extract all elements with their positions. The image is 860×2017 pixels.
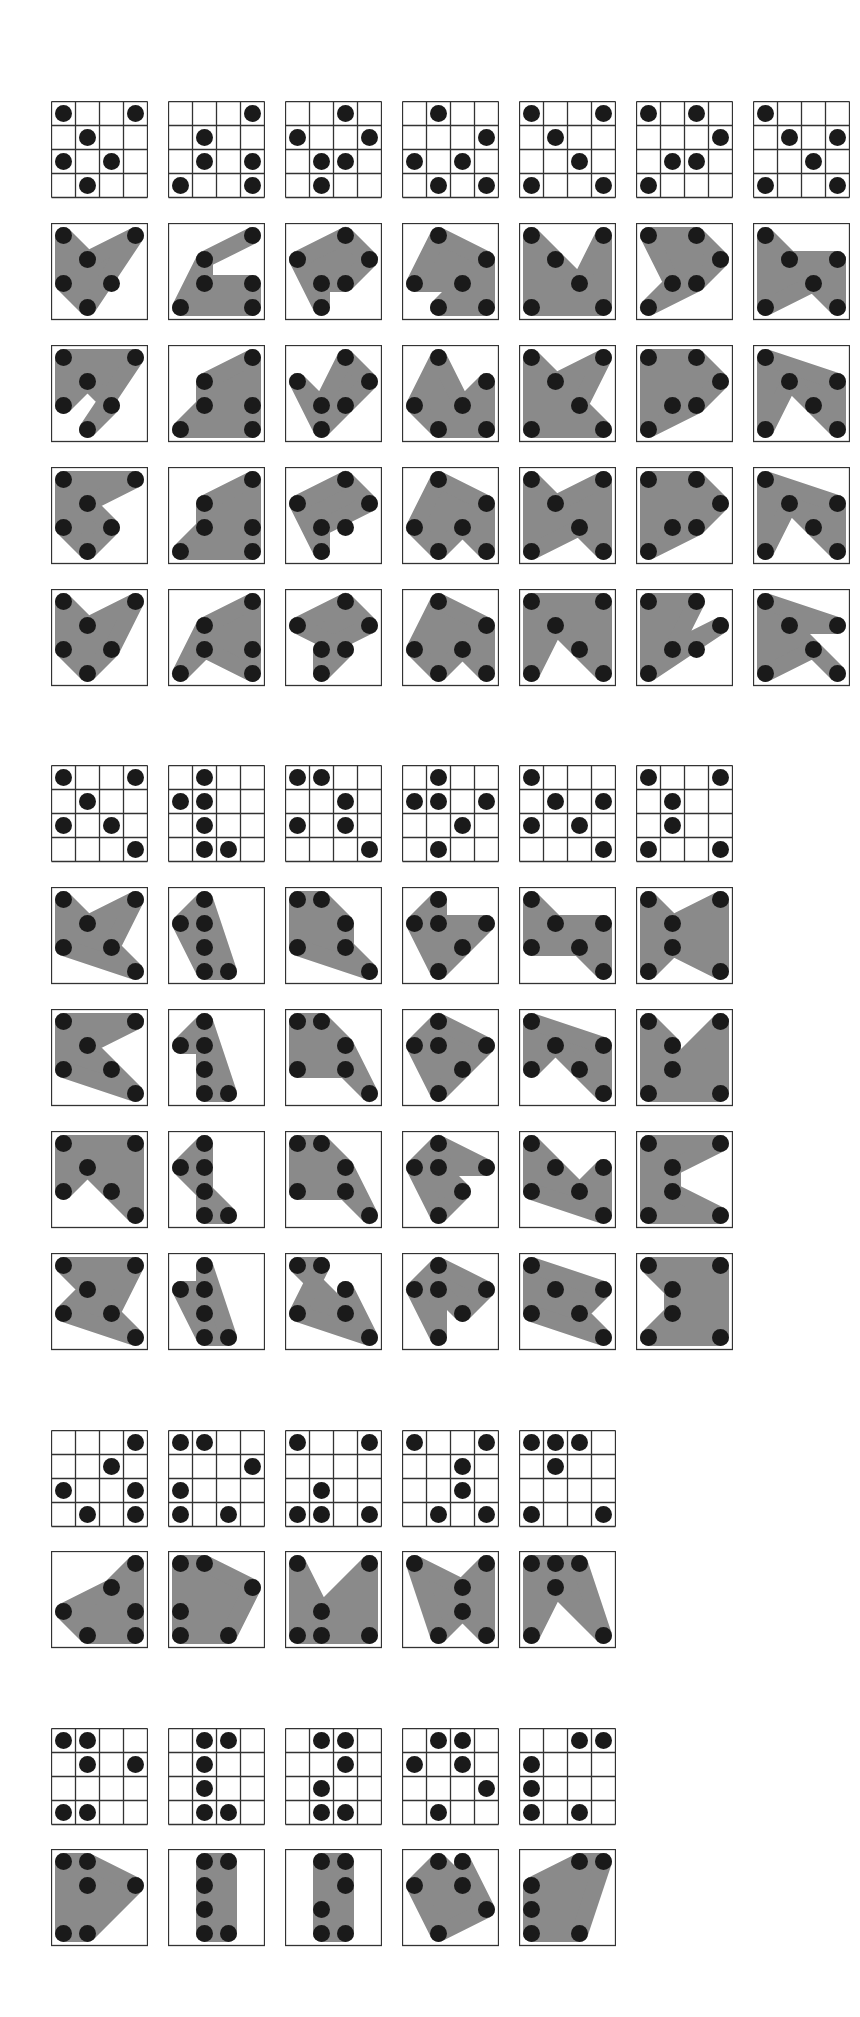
polygon-figure — [51, 1009, 147, 1106]
polygon-figure — [402, 887, 498, 984]
dot-grid — [285, 1728, 381, 1825]
dot-grid — [51, 101, 147, 198]
polygon-figure — [519, 223, 615, 320]
polygon-figure — [285, 1009, 381, 1106]
polygon-figure — [285, 223, 381, 320]
dot-grid — [519, 765, 615, 862]
dot-grid — [168, 1728, 264, 1825]
polygon-figure — [168, 887, 264, 984]
polygon-figure — [402, 1253, 498, 1350]
polygon-figure — [519, 1551, 615, 1648]
polygon-figure — [402, 1551, 498, 1648]
polygon-figure — [519, 1253, 615, 1350]
dot-grid — [168, 101, 264, 198]
polygon-figure — [636, 589, 732, 686]
polygon-figure — [285, 1551, 381, 1648]
polygon-figure — [402, 223, 498, 320]
polygon-figure — [519, 589, 615, 686]
polygon-figure — [519, 1131, 615, 1228]
polygon-figure — [168, 467, 264, 564]
polygon-figure — [636, 467, 732, 564]
polygon-figure — [51, 589, 147, 686]
dot-grid — [519, 1430, 615, 1527]
polygon-figure — [168, 1253, 264, 1350]
polygon-figure — [168, 223, 264, 320]
polygon-figure — [753, 223, 849, 320]
polygon-figure — [51, 1253, 147, 1350]
polygon-figure — [753, 345, 849, 442]
dot-grid — [51, 765, 147, 862]
dot-grid — [51, 1728, 147, 1825]
polygon-figure — [285, 345, 381, 442]
dot-grid — [402, 765, 498, 862]
polygon-figure — [168, 1131, 264, 1228]
polygon-figure — [168, 1551, 264, 1648]
polygon-figure — [753, 467, 849, 564]
dot-grid — [519, 101, 615, 198]
polygon-figure — [51, 1551, 147, 1648]
polygon-figure — [636, 223, 732, 320]
polygon-figure — [168, 345, 264, 442]
dot-grid — [636, 101, 732, 198]
polygon-figure — [402, 467, 498, 564]
polygon-figure — [636, 1009, 732, 1106]
dot-grid — [51, 1430, 147, 1527]
polygon-figure — [168, 1849, 264, 1946]
polygon-figure — [285, 467, 381, 564]
polygon-figure — [636, 345, 732, 442]
polygon-figure — [519, 887, 615, 984]
polygon-figure — [636, 1253, 732, 1350]
polygon-figure — [519, 345, 615, 442]
polygon-figure — [285, 1849, 381, 1946]
dot-grid — [285, 101, 381, 198]
polygon-figure — [402, 1849, 498, 1946]
dot-grid — [168, 1430, 264, 1527]
polygon-figure — [51, 1849, 147, 1946]
polygon-figure — [168, 1009, 264, 1106]
polygon-figure — [402, 1009, 498, 1106]
dot-grid — [285, 765, 381, 862]
polygon-figure — [51, 467, 147, 564]
dot-grid — [753, 101, 849, 198]
polygon-figure — [51, 887, 147, 984]
polygon-figure — [285, 1253, 381, 1350]
polygon-figure — [285, 887, 381, 984]
polygon-figure — [402, 1131, 498, 1228]
dot-grid — [402, 101, 498, 198]
polygon-figure — [51, 1131, 147, 1228]
polygon-figure — [519, 1009, 615, 1106]
polygon-figure — [519, 1849, 615, 1946]
polygon-figure — [636, 887, 732, 984]
polygon-figure — [636, 1131, 732, 1228]
polygon-figure — [402, 345, 498, 442]
polygon-figure — [519, 467, 615, 564]
polygon-figure — [285, 1131, 381, 1228]
polygon-figure — [753, 589, 849, 686]
dot-grid — [402, 1430, 498, 1527]
dot-grid — [519, 1728, 615, 1825]
polygon-figure — [168, 589, 264, 686]
polygon-figure — [51, 345, 147, 442]
dot-grid — [402, 1728, 498, 1825]
dot-grid — [636, 765, 732, 862]
dot-grid — [285, 1430, 381, 1527]
polygon-figure — [51, 223, 147, 320]
polygon-figure — [285, 589, 381, 686]
dot-grid — [168, 765, 264, 862]
polygon-figure — [402, 589, 498, 686]
